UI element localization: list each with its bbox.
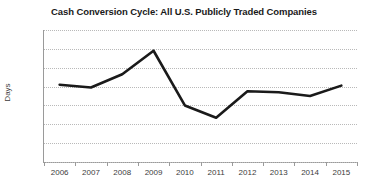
- series-line-path: [60, 51, 342, 118]
- x-tick-mark: [201, 162, 202, 166]
- x-tick-label: 2015: [321, 168, 361, 177]
- x-tick-mark: [294, 162, 295, 166]
- x-tick-mark: [357, 162, 358, 166]
- x-tick-mark: [107, 162, 108, 166]
- plot-area: [44, 30, 357, 162]
- x-tick-mark: [169, 162, 170, 166]
- x-tick-mark: [263, 162, 264, 166]
- x-tick-mark: [232, 162, 233, 166]
- chart-title: Cash Conversion Cycle: All U.S. Publicly…: [0, 6, 368, 17]
- x-tick-mark: [138, 162, 139, 166]
- chart-container: Cash Conversion Cycle: All U.S. Publicly…: [0, 0, 368, 188]
- x-tick-mark: [326, 162, 327, 166]
- series-line-chart: [44, 30, 357, 162]
- y-axis-label: Days: [3, 73, 12, 113]
- x-tick-mark: [75, 162, 76, 166]
- x-tick-mark: [44, 162, 45, 166]
